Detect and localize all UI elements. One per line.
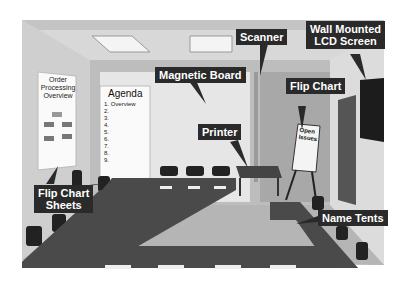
label-name-tents: Name Tents	[318, 210, 388, 226]
label-printer: Printer	[198, 124, 241, 140]
label-scanner: Scanner	[236, 29, 287, 45]
agenda-item: 5.	[104, 129, 136, 136]
label-wall-lcd-line1: Wall Mounted	[310, 23, 381, 35]
order-sheet-line1: Order	[40, 76, 76, 84]
order-sheet-line2: Processing	[40, 84, 76, 92]
label-flip-chart-sheets: Flip Chart Sheets	[34, 185, 93, 213]
label-magnetic-board: Magnetic Board	[155, 67, 246, 83]
label-flip-chart: Flip Chart	[286, 78, 345, 94]
label-wall-lcd: Wall Mounted LCD Screen	[306, 21, 385, 49]
agenda-item: 7.	[104, 143, 136, 150]
agenda-item: 1. Overview	[104, 101, 136, 108]
agenda-list: 1. Overview 2. 3. 4. 5. 6. 7. 8. 9.	[104, 101, 136, 164]
agenda-item: 3.	[104, 115, 136, 122]
agenda-item: 9.	[104, 157, 136, 164]
order-sheet-line3: Overview	[40, 92, 76, 100]
agenda-item: 6.	[104, 136, 136, 143]
agenda-item: 4.	[104, 122, 136, 129]
label-flip-chart-sheets-line2: Sheets	[38, 199, 89, 211]
agenda-title: Agenda	[108, 88, 142, 99]
agenda-item: 2.	[104, 108, 136, 115]
agenda-item: 8.	[104, 150, 136, 157]
flip-chart-pad-text: Open Issues	[298, 127, 318, 143]
order-sheet-title: Order Processing Overview	[40, 76, 76, 100]
label-flip-chart-sheets-line1: Flip Chart	[38, 187, 89, 199]
label-wall-lcd-line2: LCD Screen	[310, 35, 381, 47]
